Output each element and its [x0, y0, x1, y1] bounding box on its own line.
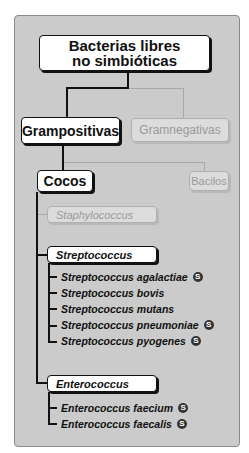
species-name: Streptococcus pneumoniae — [61, 318, 199, 332]
connector — [48, 325, 57, 327]
species-name: Enterococcus faecalis — [61, 417, 172, 431]
species-name: Streptococcus mutans — [61, 302, 174, 316]
species-item: Streptococcus bovis — [61, 286, 164, 300]
node-enterococcus: Enterococcus — [47, 375, 157, 392]
connector — [64, 162, 205, 163]
root-title-line2: no simbióticas — [72, 53, 177, 68]
species-item: Enterococcus faecium S — [61, 401, 188, 415]
node-grampositivas: Grampositivas — [21, 117, 120, 144]
connector — [62, 144, 64, 170]
connector — [36, 254, 47, 256]
connector — [48, 407, 57, 409]
connector — [48, 263, 50, 342]
connector — [48, 276, 57, 278]
connector — [66, 87, 68, 117]
node-staphylococcus: Staphylococcus — [47, 206, 157, 223]
root-node: Bacterias libres no simbióticas — [39, 35, 210, 71]
connector — [129, 88, 184, 89]
connector — [36, 192, 38, 384]
node-bacilos: Bacilos — [189, 171, 229, 191]
species-name: Enterococcus faecium — [61, 401, 173, 415]
species-item: Enterococcus faecalis S — [61, 417, 187, 431]
node-streptococcus: Streptococcus — [47, 246, 157, 263]
connector — [48, 308, 57, 310]
connector — [48, 423, 57, 425]
connector — [48, 341, 57, 343]
s-badge-icon: S — [191, 336, 201, 346]
root-title-line1: Bacterias libres — [69, 38, 181, 53]
species-name: Streptococcus bovis — [61, 286, 164, 300]
connector — [66, 87, 129, 89]
connector — [36, 382, 47, 384]
s-badge-icon: S — [204, 320, 214, 330]
species-item: Streptococcus pneumoniae S — [61, 318, 214, 332]
species-item: Streptococcus pyogenes S — [61, 334, 201, 348]
species-item: Streptococcus mutans — [61, 302, 174, 316]
connector — [38, 214, 47, 215]
node-cocos: Cocos — [37, 170, 93, 192]
species-item: Streptococcus agalactiae S — [61, 270, 203, 284]
s-badge-icon: S — [177, 419, 187, 429]
connector — [204, 162, 205, 171]
connector — [183, 88, 184, 118]
species-name: Streptococcus pyogenes — [61, 334, 186, 348]
connector — [48, 292, 57, 294]
species-name: Streptococcus agalactiae — [61, 270, 188, 284]
s-badge-icon: S — [178, 403, 188, 413]
node-gramnegativas: Gramnegativas — [131, 118, 229, 142]
s-badge-icon: S — [193, 272, 203, 282]
